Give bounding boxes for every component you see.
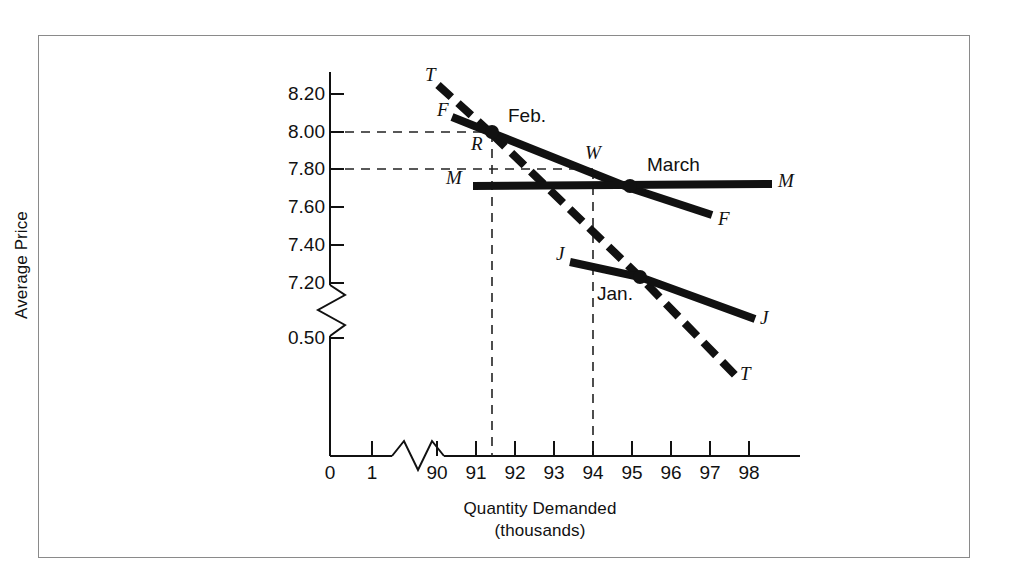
- series-label-J-left: J: [556, 243, 564, 265]
- figure-container: 8.20 8.00 7.80 7.60 7.40 7.20 0.50 0 1 9…: [0, 0, 1021, 585]
- y-axis-title: Average Price: [12, 185, 32, 345]
- x-tick-label-92: 92: [495, 462, 535, 484]
- y-tick-label-7-40: 7.40: [255, 234, 325, 256]
- y-tick-label-0-50: 0.50: [255, 327, 325, 349]
- reference-label-R: R: [471, 133, 483, 155]
- x-tick-label-97: 97: [690, 462, 730, 484]
- x-tick-label-1: 1: [352, 462, 392, 484]
- y-tick-label-7-20: 7.20: [255, 272, 325, 294]
- series-label-T-left: T: [425, 64, 436, 86]
- point-label-jan: Jan.: [597, 283, 633, 305]
- x-tick-label-91: 91: [456, 462, 496, 484]
- guide-lines: [345, 132, 593, 456]
- data-point-jan: [633, 270, 647, 284]
- point-label-march: March: [647, 154, 700, 176]
- series-F-segment-right: [630, 188, 712, 215]
- y-tick-label-8-20: 8.20: [255, 83, 325, 105]
- x-tick-label-95: 95: [612, 462, 652, 484]
- x-axis-title: Quantity Demanded (thousands): [330, 498, 750, 542]
- x-tick-label-94: 94: [573, 462, 613, 484]
- reference-label-W: W: [585, 142, 601, 164]
- y-tick-label-7-80: 7.80: [255, 158, 325, 180]
- x-tick-label-96: 96: [651, 462, 691, 484]
- x-tick-label-0: 0: [310, 462, 350, 484]
- series-label-M-right: M: [778, 170, 794, 192]
- x-tick-label-90: 90: [417, 462, 457, 484]
- series-label-M-left: M: [446, 167, 462, 189]
- series-M-line: [473, 184, 772, 186]
- series-F-segment-mid: [492, 133, 630, 188]
- series-label-F-left: F: [437, 99, 449, 121]
- data-point-feb: [485, 125, 499, 139]
- x-tick-label-98: 98: [729, 462, 769, 484]
- x-tick-label-93: 93: [534, 462, 574, 484]
- series-label-J-right: J: [760, 307, 768, 329]
- series-label-F-right: F: [718, 208, 730, 230]
- y-tick-label-8-00: 8.00: [255, 121, 325, 143]
- x-axis-title-main: Quantity Demanded: [464, 499, 617, 518]
- x-axis-title-sub: (thousands): [330, 520, 750, 542]
- series-label-T-right: T: [740, 363, 751, 385]
- y-tick-label-7-60: 7.60: [255, 196, 325, 218]
- data-point-march: [623, 179, 637, 193]
- point-label-feb: Feb.: [508, 105, 546, 127]
